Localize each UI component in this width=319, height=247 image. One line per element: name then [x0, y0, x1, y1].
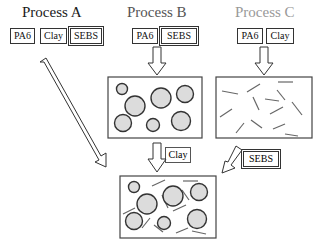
process-b-morphology-box	[108, 77, 202, 138]
process-c-morphology-box	[216, 77, 312, 138]
c-to-final-arrow-icon	[222, 146, 242, 173]
b-to-final-arrow-icon	[148, 143, 166, 172]
diagram-graphics	[0, 0, 319, 247]
process-c-arrow-icon	[255, 47, 273, 75]
process-a-arrow-icon	[40, 58, 106, 167]
final-morphology-box	[120, 176, 216, 238]
process-b-arrow-icon	[148, 47, 166, 75]
